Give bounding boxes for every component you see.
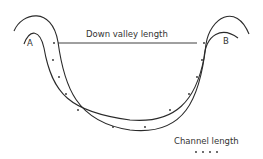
down-valley-length-label: Down valley length (86, 29, 168, 39)
label-b: B (223, 36, 229, 46)
label-a: A (27, 38, 33, 48)
channel-length-label: Channel length (174, 136, 239, 146)
legend-dots (195, 151, 218, 153)
